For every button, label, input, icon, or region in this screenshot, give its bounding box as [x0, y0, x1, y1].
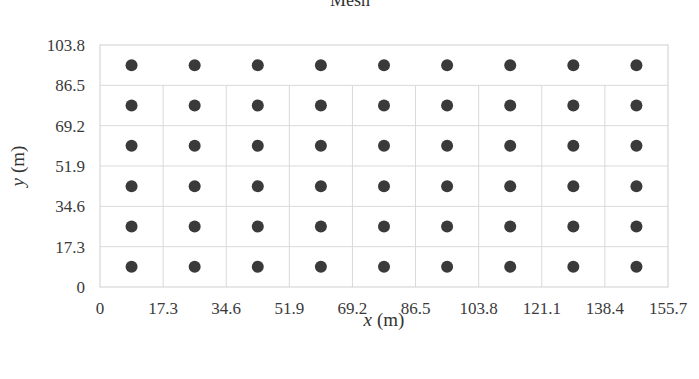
data-point	[189, 140, 201, 152]
data-point	[189, 180, 201, 192]
data-point	[567, 140, 579, 152]
y-tick-label: 34.6	[55, 197, 85, 216]
data-point	[252, 59, 264, 71]
x-tick-label: 138.4	[586, 299, 625, 318]
data-point	[441, 59, 453, 71]
x-tick-label: 51.9	[274, 299, 304, 318]
data-point	[315, 100, 327, 112]
data-point	[567, 180, 579, 192]
scatter-chart: Mesh 017.334.651.969.286.5103.8121.1138.…	[0, 0, 699, 379]
data-point	[315, 59, 327, 71]
data-point	[126, 140, 138, 152]
data-point	[441, 100, 453, 112]
data-point	[378, 261, 390, 273]
data-point	[441, 221, 453, 233]
data-point	[378, 59, 390, 71]
data-point	[315, 261, 327, 273]
data-point	[567, 59, 579, 71]
data-point	[315, 180, 327, 192]
y-tick-label: 0	[77, 278, 86, 297]
data-point	[126, 100, 138, 112]
y-tick-label: 17.3	[55, 238, 85, 257]
data-point	[441, 140, 453, 152]
x-axis-label: x(m)	[363, 309, 405, 331]
data-point	[252, 221, 264, 233]
x-tick-label: 103.8	[460, 299, 498, 318]
x-tick-label: 86.5	[401, 299, 431, 318]
x-tick-label: 155.7	[649, 299, 688, 318]
data-point	[252, 140, 264, 152]
data-point	[315, 140, 327, 152]
data-point	[630, 140, 642, 152]
x-tick-label: 34.6	[211, 299, 241, 318]
data-point	[504, 59, 516, 71]
data-point	[378, 140, 390, 152]
data-point	[126, 59, 138, 71]
data-point	[378, 180, 390, 192]
data-point	[504, 180, 516, 192]
data-point	[630, 100, 642, 112]
y-axis-label: y(m)	[7, 146, 29, 189]
data-point	[441, 180, 453, 192]
data-point	[126, 261, 138, 273]
data-point	[504, 140, 516, 152]
data-point	[126, 180, 138, 192]
y-tick-labels: 017.334.651.969.286.5103.8	[47, 36, 85, 297]
data-point	[189, 59, 201, 71]
data-point	[504, 261, 516, 273]
data-point	[441, 261, 453, 273]
data-point	[189, 100, 201, 112]
data-point	[378, 100, 390, 112]
data-point	[567, 221, 579, 233]
y-tick-label: 69.2	[55, 117, 85, 136]
data-point	[189, 221, 201, 233]
data-point	[378, 221, 390, 233]
data-point	[252, 100, 264, 112]
chart-title: Mesh	[330, 0, 370, 10]
data-point	[567, 100, 579, 112]
y-tick-label: 51.9	[55, 157, 85, 176]
data-point	[504, 100, 516, 112]
data-point	[126, 221, 138, 233]
data-point	[630, 59, 642, 71]
data-point	[567, 261, 579, 273]
data-point	[630, 221, 642, 233]
x-tick-label: 17.3	[148, 299, 178, 318]
data-point	[315, 221, 327, 233]
y-tick-label: 103.8	[47, 36, 85, 55]
data-point	[252, 261, 264, 273]
data-point	[630, 180, 642, 192]
x-tick-label: 121.1	[523, 299, 561, 318]
data-point	[630, 261, 642, 273]
x-tick-label: 0	[96, 299, 105, 318]
data-point	[504, 221, 516, 233]
data-point	[189, 261, 201, 273]
data-point	[252, 180, 264, 192]
y-tick-label: 86.5	[55, 76, 85, 95]
